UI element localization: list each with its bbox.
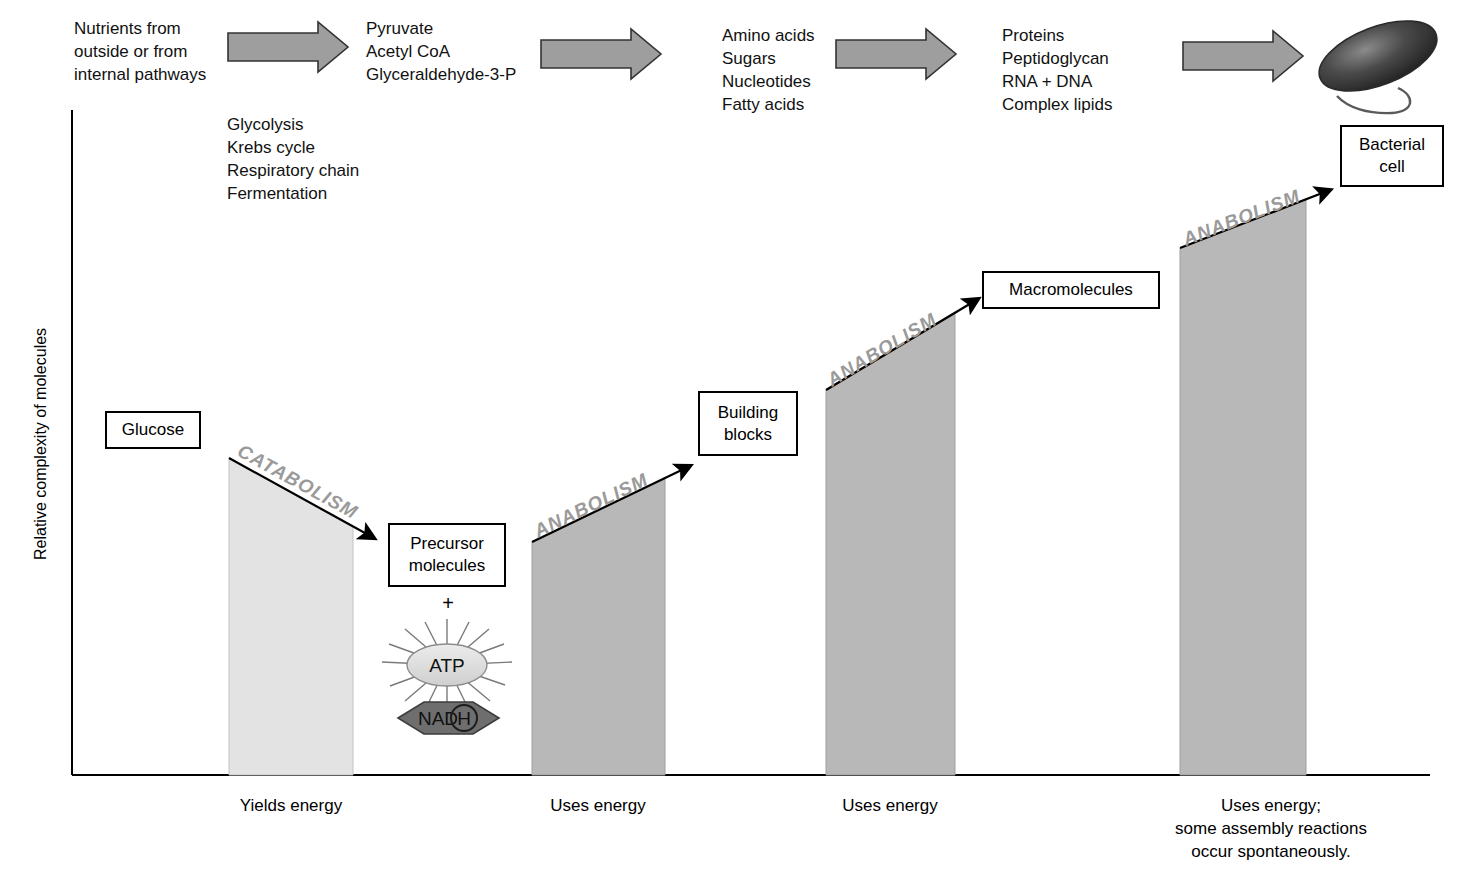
flow-arrow-4 xyxy=(1183,31,1303,81)
caption-uses-energy-2: Uses energy xyxy=(790,794,990,817)
figure-canvas: CATABOLISM ANABOLISM ANABOLISM ANABOLISM xyxy=(0,0,1468,882)
flow-arrow-1 xyxy=(228,22,348,72)
macromolecules-bar xyxy=(1180,199,1306,775)
caption-uses-energy-3: Uses energy; some assembly reactions occ… xyxy=(1126,794,1416,863)
atp-symbol: ATP xyxy=(382,619,512,712)
flow-stage-building-blocks: Amino acids Sugars Nucleotides Fatty aci… xyxy=(722,24,815,116)
caption-uses-energy-1: Uses energy xyxy=(498,794,698,817)
nadh-h-text: H xyxy=(457,708,471,729)
flow-stage-nutrients: Nutrients from outside or from internal … xyxy=(74,17,206,86)
macromolecules-box: Macromolecules xyxy=(982,271,1160,309)
flow-arrow-2 xyxy=(541,29,661,79)
flow-stage-macromolecules: Proteins Peptidoglycan RNA + DNA Complex… xyxy=(1002,24,1113,116)
plus-sign: + xyxy=(428,592,468,615)
pathways-note: Glycolysis Krebs cycle Respiratory chain… xyxy=(227,113,359,205)
y-axis-label: Relative complexity of molecules xyxy=(32,328,50,560)
flow-stage-precursors: Pyruvate Acetyl CoA Glyceraldehyde-3-P xyxy=(366,17,516,86)
nadh-symbol: NAD H xyxy=(398,702,499,734)
precursor-box-line1: Precursor xyxy=(410,533,484,555)
bacterial-cell-box-line2: cell xyxy=(1379,156,1405,178)
flow-arrow-3 xyxy=(836,29,956,79)
bacterial-cell-box: Bacterial cell xyxy=(1340,125,1444,187)
building-blocks-box-line2: blocks xyxy=(724,424,772,446)
caption-yields-energy: Yields energy xyxy=(191,794,391,817)
atp-text: ATP xyxy=(429,655,465,676)
precursor-box-line2: molecules xyxy=(409,555,486,577)
glucose-box-label: Glucose xyxy=(122,419,184,441)
bacterial-cell-box-line1: Bacterial xyxy=(1359,134,1425,156)
macromolecules-box-label: Macromolecules xyxy=(1009,279,1133,301)
precursor-molecules-box: Precursor molecules xyxy=(388,523,506,587)
building-blocks-box-line1: Building xyxy=(718,402,779,424)
building-blocks-box: Building blocks xyxy=(698,391,798,456)
glucose-box: Glucose xyxy=(105,411,201,449)
bacterial-cell-icon xyxy=(1310,7,1447,113)
